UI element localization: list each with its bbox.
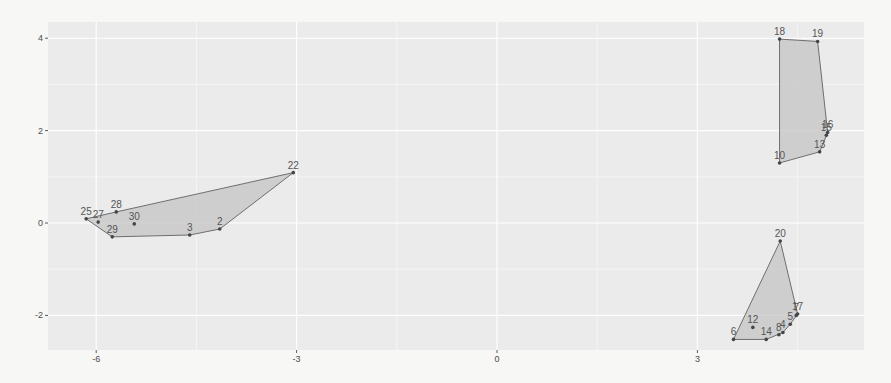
point-label: 17	[792, 301, 804, 312]
data-point	[96, 220, 100, 224]
data-point	[778, 161, 782, 165]
point-label: 28	[111, 199, 123, 210]
point-label: 12	[747, 314, 759, 325]
data-point	[751, 326, 755, 330]
y-tick-label: 4	[38, 33, 43, 43]
data-point	[778, 239, 782, 243]
x-tick-label: -3	[293, 354, 301, 364]
point-label: 29	[107, 224, 119, 235]
x-axis: -6-303	[92, 350, 700, 364]
data-point	[777, 333, 781, 337]
point-label: 14	[761, 326, 773, 337]
point-label: 30	[129, 211, 141, 222]
x-tick-label: 0	[494, 354, 499, 364]
y-tick-label: 2	[38, 126, 43, 136]
point-label: 13	[814, 139, 826, 150]
point-label: 3	[187, 222, 193, 233]
x-tick-label: 3	[695, 354, 700, 364]
data-point	[84, 217, 88, 221]
data-point	[188, 233, 192, 237]
y-axis: -2024	[35, 33, 48, 320]
point-label: 8	[776, 322, 782, 333]
data-point	[778, 37, 782, 41]
point-label: 16	[822, 119, 834, 130]
data-point	[110, 235, 114, 239]
point-label: 10	[774, 150, 786, 161]
data-point	[114, 210, 118, 214]
x-tick-label: -6	[92, 354, 100, 364]
y-tick-label: -2	[35, 310, 43, 320]
data-point	[291, 171, 295, 175]
point-label: 20	[775, 228, 787, 239]
data-point	[732, 338, 736, 342]
plot-panel	[48, 22, 864, 350]
data-point	[218, 227, 222, 231]
data-point	[788, 322, 792, 326]
point-label: 6	[731, 326, 737, 337]
data-point	[132, 222, 136, 226]
data-point	[818, 150, 822, 154]
point-label: 22	[288, 160, 300, 171]
point-label: 27	[93, 209, 105, 220]
point-label: 19	[812, 28, 824, 39]
point-label: 18	[774, 26, 786, 37]
point-label: 25	[81, 206, 93, 217]
data-point	[764, 338, 768, 342]
y-tick-label: 0	[38, 218, 43, 228]
data-point	[796, 312, 800, 316]
point-label: 2	[217, 216, 223, 227]
data-point	[826, 131, 830, 135]
data-point	[816, 40, 820, 44]
convex-hull-scatter-chart: 232225272829301013151618194567812141720 …	[0, 0, 891, 383]
